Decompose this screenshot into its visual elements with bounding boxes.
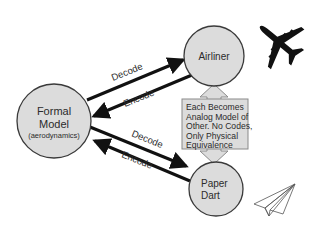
box-line-3: Other. No Codes,	[186, 121, 252, 131]
formal-model-line1: Formal	[37, 105, 71, 117]
paper-dart-line1: Paper	[201, 178, 228, 189]
paper-airplane-outline-icon	[254, 184, 295, 216]
airplane-silhouette-icon	[243, 6, 310, 77]
diagram-canvas: Decode Encode Decode Encode Each Becomes…	[0, 0, 310, 232]
node-paper-dart: Paper Dart	[189, 162, 243, 216]
box-line-2: Analog Model of	[186, 112, 249, 122]
node-formal-model: Formal Model (aerodynamics)	[17, 84, 91, 158]
label-top-encode: Encode	[122, 87, 156, 109]
airliner-label: Airliner	[198, 51, 230, 62]
formal-model-line3: (aerodynamics)	[28, 131, 80, 140]
node-airliner: Airliner	[184, 26, 244, 86]
equivalence-box: Each Becomes Analog Model of Other. No C…	[182, 99, 252, 150]
box-line-4: Only Physical	[186, 131, 238, 141]
paper-dart-line2: Dart	[201, 190, 220, 201]
box-line-5: Equivalence	[186, 140, 233, 150]
formal-model-line2: Model	[39, 118, 69, 130]
box-line-1: Each Becomes	[186, 102, 244, 112]
